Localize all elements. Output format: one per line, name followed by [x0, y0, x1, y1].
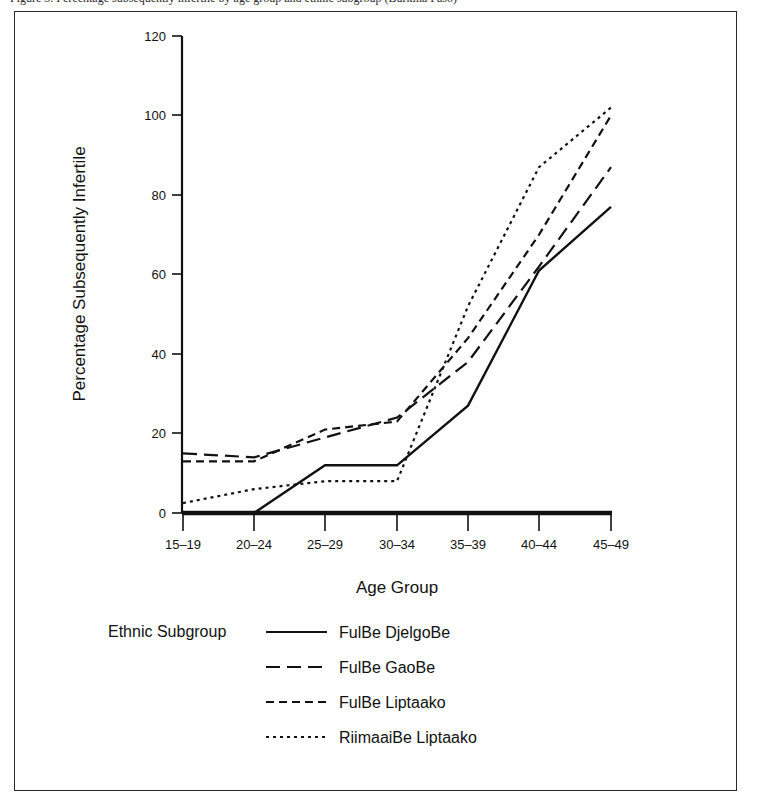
y-tick-label: 20 — [152, 426, 166, 441]
series-line-riimaaibe-liptaako — [183, 108, 611, 504]
legend-label: FulBe GaoBe — [339, 659, 435, 676]
series-line-fulbe-liptaako — [183, 116, 611, 462]
y-tick-label: 40 — [152, 347, 166, 362]
series-line-fulbe-gaobe — [183, 167, 611, 457]
legend-label: FulBe DjelgoBe — [339, 624, 450, 641]
y-tick-label: 60 — [152, 267, 166, 282]
line-chart: 120 100 80 60 40 20 0 Percentage Subsequ… — [15, 12, 738, 792]
y-axis-ticks — [172, 36, 182, 513]
legend-entry-1[interactable]: FulBe GaoBe — [266, 659, 435, 676]
x-tick-label: 25–29 — [307, 537, 343, 552]
chart-plot-area: 120 100 80 60 40 20 0 Percentage Subsequ… — [15, 12, 738, 792]
y-tick-label: 0 — [159, 506, 166, 521]
legend-entry-0[interactable]: FulBe DjelgoBe — [266, 624, 450, 641]
y-tick-label: 120 — [144, 29, 166, 44]
legend-label: FulBe Liptaako — [339, 694, 446, 711]
x-axis-title: Age Group — [356, 578, 438, 597]
legend-label: RiimaaiBe Liptaako — [339, 729, 477, 746]
series-line-fulbe-djelgobe — [254, 207, 611, 513]
y-axis-title: Percentage Subsequently Infertile — [70, 146, 89, 401]
x-tick-label: 20–24 — [236, 537, 272, 552]
x-tick-label: 35–39 — [450, 537, 486, 552]
x-tick-label: 40–44 — [521, 537, 557, 552]
data-series-group — [183, 108, 611, 513]
y-tick-label: 100 — [144, 108, 166, 123]
figure-caption-strip: Figure 3. Percentage subsequently infert… — [0, 0, 757, 9]
legend-entry-2[interactable]: FulBe Liptaako — [266, 694, 446, 711]
x-tick-label: 30–34 — [379, 537, 415, 552]
y-axis-tick-labels: 120 100 80 60 40 20 0 — [144, 29, 166, 521]
chart-legend: Ethnic Subgroup FulBe DjelgoBe FulBe Gao… — [108, 623, 477, 746]
x-tick-label: 45–49 — [593, 537, 629, 552]
x-tick-label: 15–19 — [165, 537, 201, 552]
legend-entry-3[interactable]: RiimaaiBe Liptaako — [266, 729, 477, 746]
figure-caption-text: Figure 3. Percentage subsequently infert… — [10, 0, 457, 6]
x-axis-ticks — [183, 515, 611, 531]
y-tick-label: 80 — [152, 188, 166, 203]
figure-frame: 120 100 80 60 40 20 0 Percentage Subsequ… — [14, 11, 737, 791]
x-axis-tick-labels: 15–19 20–24 25–29 30–34 35–39 40–44 45–4… — [165, 537, 629, 552]
legend-title: Ethnic Subgroup — [108, 623, 226, 640]
